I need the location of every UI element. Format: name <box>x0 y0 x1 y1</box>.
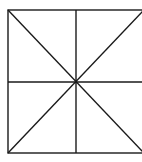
square-diagram <box>0 0 142 162</box>
center-point <box>75 81 77 83</box>
